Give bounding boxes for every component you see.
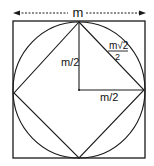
arrow-right-icon bbox=[139, 11, 146, 16]
inner-side-denominator: 2 bbox=[115, 52, 120, 62]
center-point bbox=[78, 89, 80, 91]
vertical-radius-label: m/2 bbox=[61, 56, 79, 68]
arrow-left-icon bbox=[13, 11, 20, 16]
inner-side-label: m√2 2 bbox=[108, 40, 129, 62]
inner-side-numerator: m√2 bbox=[109, 40, 129, 51]
dimension-label: m bbox=[73, 5, 84, 20]
horizontal-radius-label: m/2 bbox=[100, 91, 118, 103]
diagram-canvas: m m/2 m/2 m√2 2 bbox=[0, 0, 154, 166]
